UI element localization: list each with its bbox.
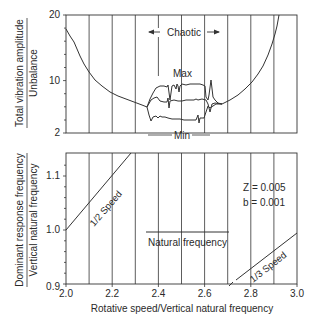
- top-ytick-10: 10: [49, 75, 61, 86]
- top-ytick-2: 2: [54, 127, 60, 138]
- max-label: Max: [173, 68, 192, 79]
- bottom-ylabel-numerator: Dominant response frequency: [14, 153, 25, 286]
- arrow-right-icon: [214, 30, 220, 35]
- bottom-gridlines: [89, 153, 274, 284]
- mean-curve: [147, 97, 222, 112]
- amplitude-curve-low: [66, 29, 147, 107]
- min-label: Min: [174, 130, 190, 141]
- xtick-3.0: 3.0: [290, 288, 304, 299]
- xtick-2.0: 2.0: [59, 288, 73, 299]
- chaotic-label: Chaotic: [167, 27, 201, 38]
- bottom-ylabel-denominator: Vertical natural frequency: [28, 164, 39, 277]
- min-envelope-curve: [147, 104, 222, 123]
- natural-frequency-label: Natural frequency: [148, 237, 227, 248]
- z-parameter-label: Z = 0.005: [243, 182, 286, 193]
- half-speed-label: 1/2 Speed: [87, 188, 124, 228]
- top-ylabel-numerator: Total vibration amplitude: [14, 19, 25, 127]
- bottom-xticks: [66, 284, 297, 287]
- top-ytick-20: 20: [49, 9, 61, 20]
- top-ylabel: Total vibration amplitude Unbalance: [14, 18, 39, 128]
- bottom-ytick-1.1: 1.1: [46, 170, 60, 181]
- xtick-2.6: 2.6: [198, 288, 212, 299]
- chart-figure: Chaotic Max Min 20 10 2 Total vibration …: [0, 0, 319, 328]
- max-envelope-curve: [147, 80, 222, 107]
- bottom-ytick-1.0: 1.0: [46, 224, 60, 235]
- top-ylabel-denominator: Unbalance: [28, 49, 39, 97]
- arrow-left-icon: [148, 30, 154, 35]
- xtick-2.2: 2.2: [105, 288, 119, 299]
- xtick-2.8: 2.8: [244, 288, 258, 299]
- b-parameter-label: b = 0.001: [243, 197, 285, 208]
- bottom-ylabel: Dominant response frequency Vertical nat…: [14, 153, 39, 287]
- x-axis-label: Rotative speed/Vertical natural frequenc…: [91, 303, 273, 314]
- xtick-2.4: 2.4: [151, 288, 165, 299]
